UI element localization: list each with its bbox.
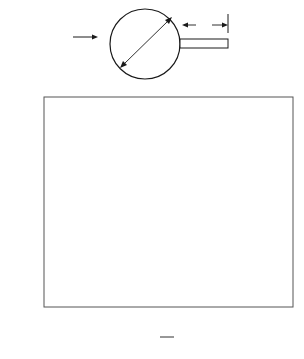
length-arrowhead-icon bbox=[222, 23, 228, 28]
cylinder-plate-diagram bbox=[0, 0, 228, 79]
length-arrowhead-icon bbox=[182, 23, 188, 28]
figure bbox=[0, 0, 304, 359]
freestream-arrowhead-icon bbox=[92, 35, 98, 40]
plot-area bbox=[44, 97, 293, 307]
splitter-plate bbox=[180, 39, 228, 48]
plot-frame bbox=[44, 97, 293, 307]
